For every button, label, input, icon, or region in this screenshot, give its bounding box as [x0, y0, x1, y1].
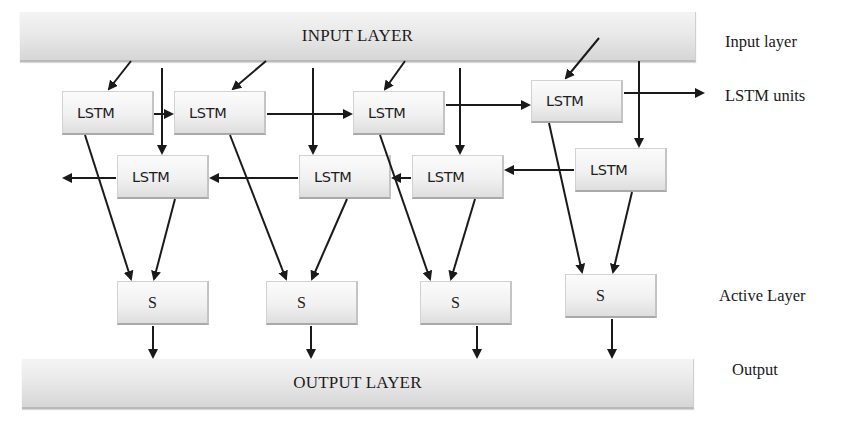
activation-label: S [148, 294, 157, 312]
side-label-active-layer: Active Layer [719, 286, 806, 306]
bilstm-diagram: INPUT LAYER OUTPUT LAYER LSTM LSTM LSTM … [0, 0, 843, 423]
backward-lstm-unit-4: LSTM [575, 148, 667, 192]
lstm-label: LSTM [314, 169, 351, 185]
activation-label: S [596, 287, 605, 305]
side-label-lstm-units: LSTM units [725, 86, 805, 106]
forward-lstm-unit-2: LSTM [174, 91, 266, 135]
input-layer-label: INPUT LAYER [302, 26, 413, 46]
arrow-f2-to-s2 [230, 135, 286, 279]
arrow-f4-to-s4 [549, 123, 582, 272]
backward-lstm-unit-3: LSTM [412, 155, 504, 199]
forward-lstm-unit-3: LSTM [353, 91, 445, 135]
lstm-label: LSTM [132, 169, 169, 185]
input-layer-bar: INPUT LAYER [20, 12, 696, 62]
activation-unit-1: S [117, 281, 209, 325]
lstm-label: LSTM [427, 169, 464, 185]
arrow-b1-to-s1 [154, 199, 175, 279]
side-label-output: Output [732, 360, 778, 380]
forward-lstm-unit-4: LSTM [531, 80, 623, 123]
lstm-label: LSTM [546, 93, 583, 109]
forward-lstm-unit-1: LSTM [62, 91, 154, 135]
backward-lstm-unit-2: LSTM [299, 155, 391, 199]
lstm-label: LSTM [368, 105, 405, 121]
arrow-input-to-f1 [109, 61, 131, 89]
activation-label: S [451, 294, 460, 312]
backward-lstm-unit-1: LSTM [117, 155, 209, 199]
activation-unit-3: S [420, 281, 512, 325]
lstm-label: LSTM [189, 105, 226, 121]
arrow-input-to-f3 [385, 61, 405, 89]
output-layer-bar: OUTPUT LAYER [22, 359, 694, 409]
arrow-b2-to-s2 [312, 199, 347, 279]
lstm-label: LSTM [77, 105, 114, 121]
arrow-b3-to-s3 [451, 199, 475, 279]
lstm-label: LSTM [590, 162, 627, 178]
activation-label: S [297, 294, 306, 312]
arrow-b4-to-s4 [613, 192, 632, 272]
activation-unit-2: S [266, 281, 358, 325]
arrow-input-to-f2 [233, 61, 266, 89]
activation-unit-4: S [565, 274, 657, 318]
side-label-input: Input layer [725, 32, 797, 52]
output-layer-label: OUTPUT LAYER [293, 373, 422, 393]
